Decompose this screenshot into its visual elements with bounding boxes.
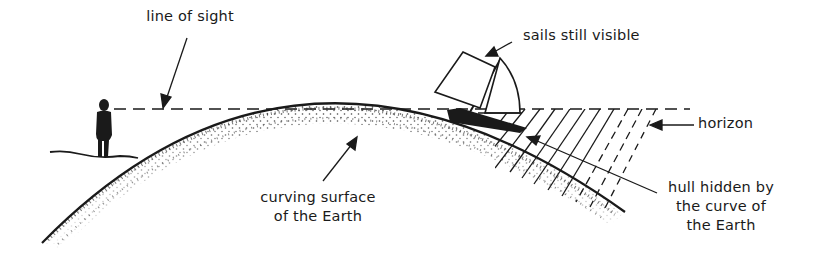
earth-surface [42, 103, 625, 250]
hull-hidden-label: hull hidden by the curve of the Earth [656, 178, 786, 235]
sails-visible-label: sails still visible [523, 26, 640, 45]
observer-person-icon [96, 99, 112, 157]
line-of-sight-label: line of sight [142, 7, 238, 26]
hull-hidden-line-2: the curve of [656, 197, 786, 216]
curving-surface-line-2: of the Earth [250, 207, 386, 226]
hull-hidden-line-3: the Earth [656, 216, 786, 235]
horizon-label: horizon [698, 114, 753, 133]
ground-line [50, 151, 138, 158]
curving-surface-label: curving surface of the Earth [250, 188, 386, 226]
hull-hidden-line-1: hull hidden by [656, 178, 786, 197]
curving-surface-line-1: curving surface [250, 188, 386, 207]
